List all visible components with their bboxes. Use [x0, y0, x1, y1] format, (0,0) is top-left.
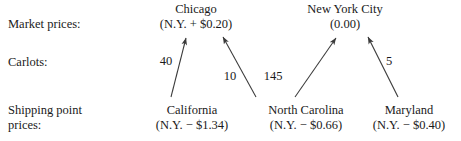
shipping-point-node-maryland-price: (N.Y. − $0.40)	[373, 118, 445, 133]
row-label-carlots: Carlots:	[8, 55, 48, 70]
shipping-point-node-north-carolina-name: North Carolina	[268, 103, 343, 118]
market-node-new-york-city-name: New York City	[307, 2, 382, 17]
market-node-chicago-price: (N.Y. + $0.20)	[160, 17, 232, 32]
flow-arrow-north-carolina-new-york-city	[295, 38, 336, 97]
market-node-chicago-name: Chicago	[160, 2, 232, 17]
market-node-new-york-city: New York City (0.00)	[307, 2, 382, 32]
shipping-point-node-north-carolina: North Carolina (N.Y. − $0.66)	[268, 103, 343, 133]
shipping-point-node-maryland-name: Maryland	[373, 103, 445, 118]
shipping-point-node-california-name: California	[156, 103, 228, 118]
shipping-point-node-california: California (N.Y. − $1.34)	[156, 103, 228, 133]
market-node-chicago: Chicago (N.Y. + $0.20)	[160, 2, 232, 32]
row-label-shipping-point-line1: Shipping point	[8, 103, 82, 118]
row-label-market-prices: Market prices:	[8, 17, 81, 32]
market-node-new-york-city-price: (0.00)	[307, 17, 382, 32]
carlots-california-chicago: 40	[160, 54, 173, 69]
price-flow-diagram: Market prices: Carlots: Shipping point p…	[0, 0, 461, 141]
carlots-maryland-new-york-city: 5	[386, 54, 392, 69]
shipping-point-node-maryland: Maryland (N.Y. − $0.40)	[373, 103, 445, 133]
shipping-point-node-california-price: (N.Y. − $1.34)	[156, 118, 228, 133]
carlots-north-carolina-chicago: 10	[224, 69, 237, 84]
flow-arrow-north-carolina-chicago	[223, 37, 256, 97]
row-label-shipping-point-prices: Shipping point prices:	[8, 103, 82, 133]
shipping-point-node-north-carolina-price: (N.Y. − $0.66)	[268, 118, 343, 133]
carlots-north-carolina-new-york-city: 145	[264, 69, 283, 84]
row-label-shipping-point-line2: prices:	[8, 118, 82, 133]
flow-arrow-california-chicago	[171, 38, 186, 97]
flow-arrow-maryland-new-york-city	[368, 37, 398, 97]
